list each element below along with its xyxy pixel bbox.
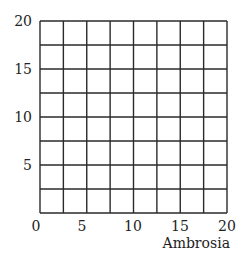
x-tick-label: 0 (32, 219, 41, 233)
y-tick-label: 20 (14, 14, 32, 28)
y-tick-label: 15 (14, 62, 32, 76)
x-tick-label: 15 (171, 219, 189, 233)
x-tick-label: 10 (124, 219, 142, 233)
x-axis-label: Ambrosia (163, 236, 230, 250)
x-tick-label: 5 (78, 219, 87, 233)
y-tick-label: 5 (23, 158, 32, 172)
y-tick-label: 10 (14, 110, 32, 124)
chart: 2015105 05101520 Ambrosia (0, 0, 246, 265)
x-tick-label: 20 (218, 219, 236, 233)
